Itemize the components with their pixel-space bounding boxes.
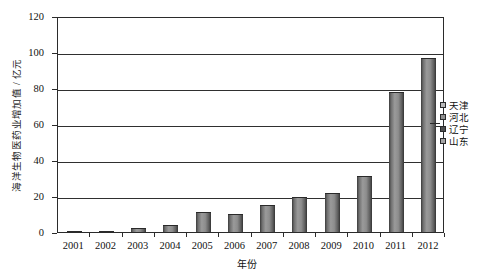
gridline-80 (58, 90, 443, 91)
bar-2002 (99, 231, 114, 232)
x-tick-mark-2009 (347, 233, 348, 237)
legend-swatch-icon (440, 138, 446, 144)
bar-2008 (292, 197, 307, 232)
x-axis-title: 年份 (0, 256, 493, 271)
gridline-40 (58, 162, 443, 163)
y-tick-label-120: 120 (10, 12, 44, 22)
bar-2012 (421, 58, 436, 232)
bar-2009 (325, 193, 340, 232)
plot-area (57, 17, 444, 233)
y-tick-label-20: 20 (10, 192, 44, 202)
x-tick-mark-2006 (251, 233, 252, 237)
y-tick-label-0: 0 (10, 228, 44, 238)
chart-legend: 天津河北辽宁山东 (440, 99, 493, 147)
legend-swatch-icon (440, 114, 446, 120)
gridline-100 (58, 54, 443, 55)
bar-2004 (163, 225, 178, 232)
legend-swatch-icon (440, 126, 446, 132)
y-tick-label-60: 60 (10, 120, 44, 130)
bar-2005 (196, 212, 211, 232)
x-tick-mark-2011 (412, 233, 413, 237)
gridline-60 (58, 126, 443, 127)
x-tick-mark-2010 (380, 233, 381, 237)
bar-2001 (67, 231, 82, 232)
y-tick-label-80: 80 (10, 84, 44, 94)
x-tick-mark-2002 (122, 233, 123, 237)
y-tick-mark-0 (52, 233, 57, 234)
bar-2011 (389, 92, 404, 232)
bar-2007 (260, 205, 275, 232)
legend-label: 山东 (449, 134, 469, 148)
x-tick-mark-2007 (283, 233, 284, 237)
x-tick-mark-2003 (154, 233, 155, 237)
bar-chart: 海洋生物医药业增加值 / 亿元 020406080100120 20012002… (0, 0, 493, 280)
x-tick-mark-2004 (186, 233, 187, 237)
x-tick-label-2012: 2012 (408, 240, 448, 251)
bar-2006 (228, 214, 243, 232)
x-tick-mark-2005 (218, 233, 219, 237)
x-tick-mark-2001 (89, 233, 90, 237)
legend-swatch-icon (440, 102, 446, 108)
y-tick-label-40: 40 (10, 156, 44, 166)
y-tick-label-100: 100 (10, 48, 44, 58)
x-tick-mark-2008 (315, 233, 316, 237)
bar-2010 (357, 176, 372, 232)
bar-2003 (131, 228, 146, 233)
legend-divider (430, 123, 440, 124)
x-tick-mark-2012 (444, 233, 445, 237)
gridline-20 (58, 198, 443, 199)
legend-item-3: 山东 (440, 135, 493, 147)
